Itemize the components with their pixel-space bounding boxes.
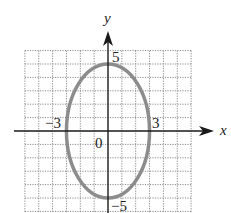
ellipse-graph: x y −3 3 5 −5 0 <box>0 0 231 213</box>
tick-label-y-5: 5 <box>112 49 120 65</box>
tick-label-x-3: 3 <box>152 115 160 131</box>
y-axis-label: y <box>102 10 111 26</box>
tick-label-y-neg5: −5 <box>111 198 127 213</box>
x-axis-label: x <box>219 122 227 138</box>
origin-label: 0 <box>95 135 103 151</box>
tick-label-x-neg3: −3 <box>45 115 61 131</box>
